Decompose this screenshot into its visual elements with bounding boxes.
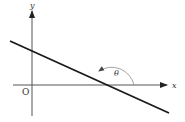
origin-label: O (22, 87, 29, 97)
angle-theta-label: θ (114, 69, 119, 78)
inclined-line (10, 41, 169, 113)
x-axis-label: x (172, 81, 177, 90)
coordinate-diagram: y x O θ (0, 0, 185, 122)
y-axis-label: y (29, 1, 35, 10)
